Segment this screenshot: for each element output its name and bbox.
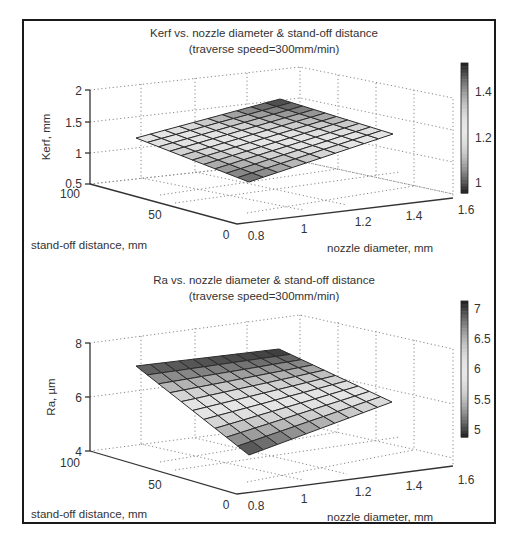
svg-text:6.5: 6.5 <box>474 332 491 346</box>
ra-x-ticks: 0.8 1 1.2 1.4 1.6 <box>248 473 475 513</box>
svg-text:0: 0 <box>223 228 230 242</box>
svg-text:1: 1 <box>475 176 482 190</box>
svg-text:8: 8 <box>75 337 82 351</box>
svg-text:0.8: 0.8 <box>248 499 265 513</box>
ra-x-axis-label: nozzle diameter, mm <box>327 511 433 523</box>
svg-text:7: 7 <box>474 302 481 316</box>
kerf-colorbar <box>461 63 468 194</box>
svg-text:1.2: 1.2 <box>355 485 372 499</box>
svg-text:1: 1 <box>301 222 308 236</box>
figure-canvas: Kerf vs. nozzle diameter & stand-off dis… <box>0 0 510 546</box>
kerf-surface-plot: Kerf vs. nozzle diameter & stand-off dis… <box>31 27 492 254</box>
svg-text:2: 2 <box>75 84 82 98</box>
svg-text:1.4: 1.4 <box>406 479 423 493</box>
kerf-z-axis-label: Kerf, mm <box>40 114 52 161</box>
svg-text:0.8: 0.8 <box>248 229 265 243</box>
svg-text:100: 100 <box>60 187 80 201</box>
svg-text:5.5: 5.5 <box>474 393 491 407</box>
svg-text:1.4: 1.4 <box>406 209 423 223</box>
svg-text:1.2: 1.2 <box>475 131 492 145</box>
ra-colorbar <box>461 301 468 438</box>
svg-text:100: 100 <box>60 456 80 470</box>
svg-text:1: 1 <box>75 147 82 161</box>
svg-text:1.6: 1.6 <box>458 203 475 217</box>
svg-text:0: 0 <box>223 498 230 512</box>
kerf-colorbar-ticks: 1.4 1.2 1 <box>475 85 492 190</box>
svg-text:1.5: 1.5 <box>65 116 82 130</box>
svg-text:50: 50 <box>148 208 162 222</box>
ra-y-axis-label: stand-off distance, mm <box>31 508 147 520</box>
kerf-surface-mesh <box>136 99 393 182</box>
svg-text:1.6: 1.6 <box>458 473 475 487</box>
svg-text:1.4: 1.4 <box>475 85 492 99</box>
svg-text:6: 6 <box>474 362 481 376</box>
svg-text:1.2: 1.2 <box>355 215 372 229</box>
kerf-plot-subtitle: (traverse speed=300mm/min) <box>189 43 340 55</box>
svg-text:6: 6 <box>75 391 82 405</box>
ra-z-axis-label: Ra, µm <box>45 378 57 415</box>
kerf-x-axis-label: nozzle diameter, mm <box>327 242 433 254</box>
ra-surface-mesh <box>136 349 392 455</box>
kerf-z-ticks: 2 1.5 1 0.5 <box>65 84 82 191</box>
ra-plot-title: Ra vs. nozzle diameter & stand-off dista… <box>153 274 375 286</box>
ra-colorbar-ticks: 7 6.5 6 5.5 5 <box>474 302 491 437</box>
ra-z-ticks: 8 6 4 <box>75 337 82 459</box>
kerf-plot-title: Kerf vs. nozzle diameter & stand-off dis… <box>150 27 378 39</box>
ra-plot-subtitle: (traverse speed=300mm/min) <box>189 290 340 302</box>
svg-text:50: 50 <box>148 478 162 492</box>
ra-surface-plot: Ra vs. nozzle diameter & stand-off dista… <box>31 274 491 523</box>
svg-text:1: 1 <box>301 492 308 506</box>
kerf-y-axis-label: stand-off distance, mm <box>31 239 147 251</box>
svg-text:5: 5 <box>474 423 481 437</box>
